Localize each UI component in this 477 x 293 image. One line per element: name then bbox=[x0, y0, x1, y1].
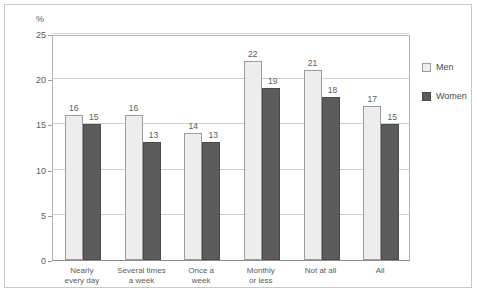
x-axis-category-label-line: or less bbox=[223, 276, 299, 286]
legend-item-women[interactable]: Women bbox=[422, 91, 467, 101]
y-axis-tick-label: 10 bbox=[16, 166, 46, 176]
y-axis-tick-label: 25 bbox=[16, 30, 46, 40]
bar-value-label: 15 bbox=[382, 112, 402, 122]
y-axis-tick-label: 5 bbox=[16, 211, 46, 221]
bar-value-label: 16 bbox=[124, 103, 144, 113]
x-axis-category-label: All bbox=[342, 266, 418, 276]
y-axis-tick-mark bbox=[48, 125, 52, 126]
bar-women bbox=[262, 88, 280, 260]
bar-women bbox=[202, 142, 220, 260]
y-axis-tick-label: 15 bbox=[16, 120, 46, 130]
bar-men bbox=[363, 106, 381, 260]
bar-group: 1413 bbox=[184, 36, 220, 260]
legend-swatch-women-icon bbox=[422, 92, 431, 101]
bar-value-label: 15 bbox=[84, 112, 104, 122]
bar-men bbox=[304, 70, 322, 260]
y-axis-tick-mark bbox=[48, 216, 52, 217]
bar-group: 1613 bbox=[125, 36, 161, 260]
legend-swatch-men-icon bbox=[422, 63, 431, 72]
bar-value-label: 14 bbox=[183, 121, 203, 131]
bar-men bbox=[184, 133, 202, 260]
bar-men bbox=[65, 115, 83, 260]
y-axis-tick-label: 0 bbox=[16, 256, 46, 266]
bar-group: 2219 bbox=[244, 36, 280, 260]
bar-value-label: 19 bbox=[263, 76, 283, 86]
y-axis-tick-mark bbox=[48, 35, 52, 36]
gridline bbox=[53, 78, 409, 79]
bar-value-label: 22 bbox=[243, 49, 263, 59]
chart-legend: Men Women bbox=[422, 62, 467, 120]
y-axis-tick-mark bbox=[48, 80, 52, 81]
y-axis-unit-label: % bbox=[36, 14, 44, 24]
bar-value-label: 13 bbox=[203, 130, 223, 140]
plot-area: 161516131413221921181715 bbox=[52, 35, 410, 261]
bar-men bbox=[125, 115, 143, 260]
legend-label-women: Women bbox=[436, 91, 467, 101]
bar-group: 2118 bbox=[304, 36, 340, 260]
bar-women bbox=[143, 142, 161, 260]
x-axis-category-label-line: All bbox=[342, 266, 418, 276]
gridline bbox=[53, 123, 409, 124]
legend-item-men[interactable]: Men bbox=[422, 62, 467, 72]
bar-group: 1715 bbox=[363, 36, 399, 260]
bar-women bbox=[322, 97, 340, 260]
bar-women bbox=[381, 124, 399, 260]
bar-men bbox=[244, 61, 262, 260]
bar-women bbox=[83, 124, 101, 260]
gridline bbox=[53, 169, 409, 170]
bar-value-label: 17 bbox=[362, 94, 382, 104]
bar-value-label: 16 bbox=[64, 103, 84, 113]
bar-value-label: 18 bbox=[323, 85, 343, 95]
y-axis-tick-mark bbox=[48, 171, 52, 172]
bar-group: 1615 bbox=[65, 36, 101, 260]
bar-chart-figure: % 161516131413221921181715 0510152025 Ne… bbox=[0, 0, 477, 293]
gridline bbox=[53, 214, 409, 215]
bar-value-label: 21 bbox=[303, 58, 323, 68]
legend-label-men: Men bbox=[436, 62, 454, 72]
gridline bbox=[53, 33, 409, 34]
bar-value-label: 13 bbox=[144, 130, 164, 140]
y-axis-tick-mark bbox=[48, 261, 52, 262]
y-axis-tick-label: 20 bbox=[16, 75, 46, 85]
